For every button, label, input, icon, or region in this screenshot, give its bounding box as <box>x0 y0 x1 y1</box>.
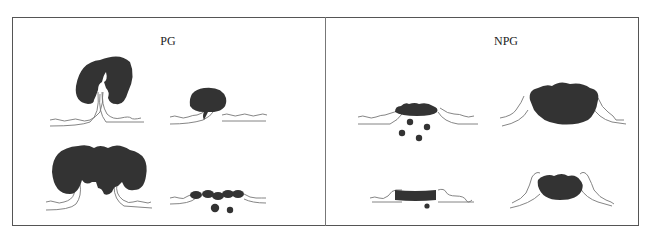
npg-top-left-mass <box>395 103 438 141</box>
pg-bottom-right-mass <box>190 190 244 213</box>
pg-top-right-tissue <box>170 111 267 124</box>
diagram-art <box>0 0 648 238</box>
npg-bottom-left-mass <box>395 190 436 209</box>
npg-bottom-right-mass <box>538 174 583 200</box>
npg-top-right-mass <box>530 82 599 124</box>
pg-top-left-tissue <box>50 92 144 126</box>
pg-bottom-left-mass <box>52 145 147 194</box>
pg-top-left-mass <box>76 56 133 104</box>
